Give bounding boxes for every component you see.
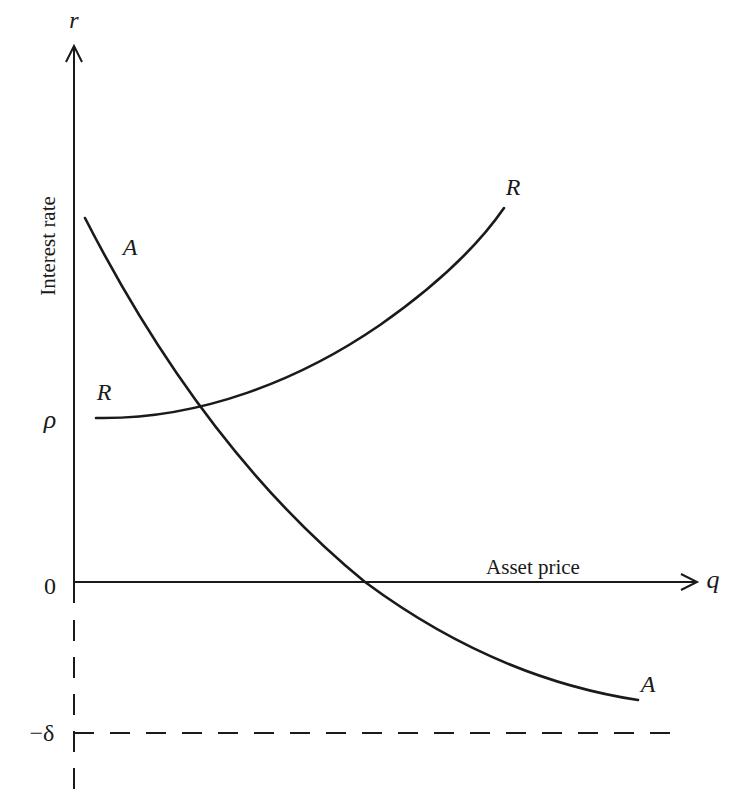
minus-delta-label: −δ (30, 720, 55, 746)
x-axis (74, 574, 697, 590)
curve-R-start-label: R (96, 379, 112, 405)
curve-R (96, 208, 504, 418)
curve-R-end-label: R (505, 174, 521, 200)
rho-label: ρ (43, 405, 56, 434)
curve-A-start-label: A (121, 234, 138, 260)
asset-interest-diagram: r Interest rate Asset price q ρ 0 −δ A A… (0, 0, 753, 808)
curve-A (85, 218, 638, 700)
zero-label: 0 (44, 573, 56, 599)
y-axis-symbol: r (69, 7, 79, 33)
y-axis-label: Interest rate (36, 196, 60, 296)
x-axis-label: Asset price (486, 555, 580, 579)
y-axis (66, 46, 82, 603)
curve-A-end-label: A (639, 671, 656, 697)
x-axis-symbol: q (707, 565, 720, 594)
